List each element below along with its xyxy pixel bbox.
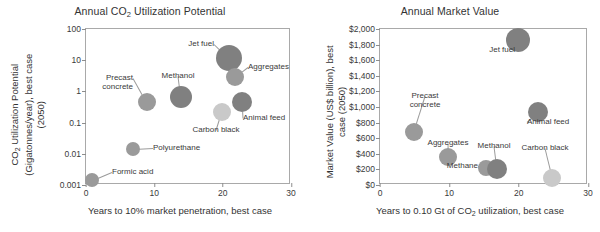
y-axis-tick-label: 1 bbox=[76, 86, 86, 96]
xaxis-title-left: Years to 10% market penetration, best ca… bbox=[40, 205, 320, 216]
figure-canvas: Annual CO2 Utilization Potential Annual … bbox=[0, 0, 600, 232]
data-point-label: Carbon black bbox=[192, 125, 239, 134]
data-point-marker bbox=[138, 93, 156, 111]
data-point-label: Methanol bbox=[478, 141, 511, 150]
data-point-label: Carbon black bbox=[521, 143, 568, 152]
y-axis-tick-label: $400 bbox=[356, 149, 380, 159]
y-axis-tick-label: 0.001 bbox=[60, 180, 86, 190]
y-axis-tick-label: 0.1 bbox=[69, 118, 86, 128]
data-point-label: Precastconcrete bbox=[102, 73, 133, 92]
data-point-label: Jet fuel bbox=[188, 39, 214, 48]
plot-area-left: 0.0010.010.11101000102030 bbox=[85, 28, 290, 184]
y-axis-tick-label: $1,000 bbox=[349, 102, 380, 112]
title-left-prefix: Annual CO bbox=[75, 5, 127, 17]
data-point-label: Animal feed bbox=[243, 113, 285, 122]
chart-title-right: Annual Market Value bbox=[300, 5, 600, 17]
y-axis-tick-label: $200 bbox=[356, 164, 380, 174]
data-point-marker bbox=[232, 92, 252, 112]
data-point-label: Animal feed bbox=[527, 117, 569, 126]
x-axis-tick-label: 0 bbox=[378, 183, 383, 198]
chart-title-left: Annual CO2 Utilization Potential bbox=[0, 5, 300, 19]
x-axis-tick-label: 30 bbox=[583, 183, 592, 198]
y-axis-tick-label: $1,600 bbox=[349, 55, 380, 65]
y-axis-tick-label: 10 bbox=[72, 55, 86, 65]
data-point-label: Precastconcrete bbox=[410, 91, 441, 110]
x-axis-tick-label: 10 bbox=[150, 183, 159, 198]
data-point-label: Aggregates bbox=[248, 62, 289, 71]
x-axis-tick-label: 10 bbox=[445, 183, 454, 198]
y-axis-tick-label: $1,200 bbox=[349, 86, 380, 96]
x-axis-tick-label: 30 bbox=[286, 183, 295, 198]
data-point-marker bbox=[543, 169, 561, 187]
title-left-suffix: Utilization Potential bbox=[131, 5, 225, 17]
data-point-label: Methane bbox=[447, 161, 478, 170]
data-point-label: Jet fuel bbox=[489, 45, 515, 54]
y-axis-tick-label: $600 bbox=[356, 133, 380, 143]
data-point-label: Aggregates bbox=[428, 138, 469, 147]
x-axis-tick-label: 20 bbox=[218, 183, 227, 198]
data-point-marker bbox=[213, 103, 231, 121]
data-point-marker bbox=[85, 173, 99, 187]
data-point-marker bbox=[170, 86, 192, 108]
data-point-marker bbox=[487, 159, 507, 179]
data-point-label: Formic acid bbox=[112, 167, 153, 176]
y-axis-tick-label: $800 bbox=[356, 118, 380, 128]
y-axis-tick-label: 100 bbox=[67, 24, 86, 34]
y-axis-tick-label: 0.01 bbox=[64, 149, 86, 159]
data-point-marker bbox=[226, 68, 244, 86]
data-point-label: Methanol bbox=[162, 71, 195, 80]
y-axis-tick-label: $1,800 bbox=[349, 40, 380, 50]
data-point-marker bbox=[405, 123, 423, 141]
x-axis-tick-label: 20 bbox=[514, 183, 523, 198]
data-point-marker bbox=[216, 45, 242, 71]
y-axis-tick-label: $1,400 bbox=[349, 71, 380, 81]
xaxis-title-right: Years to 0.10 Gt of CO2 utilization, bes… bbox=[340, 205, 600, 217]
y-axis-tick-label: $2,000 bbox=[349, 24, 380, 34]
yaxis-title-left: CO2 Utilization Potential (Gigatonnes/ye… bbox=[9, 35, 47, 195]
data-point-marker bbox=[126, 142, 140, 156]
data-point-label: Polyurethane bbox=[153, 143, 200, 152]
yaxis-title-right: Market Value (US$ billion), best case (2… bbox=[324, 37, 348, 187]
